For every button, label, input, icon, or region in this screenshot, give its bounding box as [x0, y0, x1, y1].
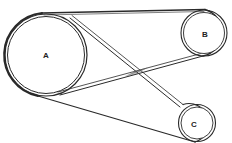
pulley-b: B: [181, 10, 227, 56]
belt-pulley-diagram: A B C: [0, 0, 232, 143]
pulley-c: C: [179, 105, 216, 142]
pulley-c-rim-inner: [181, 107, 213, 139]
pulley-b-label: B: [202, 30, 208, 39]
bottom-belt-A-to-C: [38, 96, 195, 142]
pulley-a: A: [5, 14, 87, 96]
pulley-a-label: A: [43, 51, 49, 60]
top-belt-A-to-B: [42, 10, 205, 14]
pulley-c-label: C: [191, 120, 197, 129]
